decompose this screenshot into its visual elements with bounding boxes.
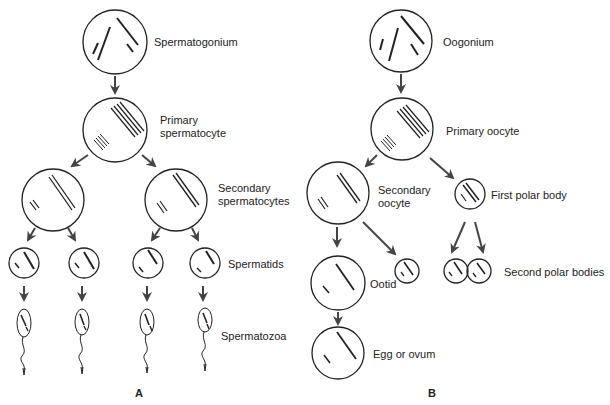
label-ootid: Ootid bbox=[370, 277, 396, 291]
diagram-graphics bbox=[0, 0, 610, 405]
spermatozoa-cells bbox=[17, 308, 212, 375]
egg-cell bbox=[312, 327, 364, 379]
label-secondary-oocyte-line2: oocyte bbox=[378, 196, 410, 210]
primary-spermatocyte-cell bbox=[83, 98, 147, 162]
label-oogonium: Oogonium bbox=[443, 35, 494, 49]
label-primary-oocyte: Primary oocyte bbox=[446, 124, 519, 138]
secondary-oocyte-cell bbox=[307, 162, 369, 224]
secondary-spermatocyte-cell-right bbox=[145, 169, 207, 231]
panel-letter-b: B bbox=[428, 387, 436, 399]
label-secondary-spermatocytes-line2: spermatocytes bbox=[218, 194, 290, 208]
primary-oocyte-cell bbox=[371, 98, 433, 160]
label-spermatids: Spermatids bbox=[228, 257, 284, 271]
label-primary-spermatocyte-line1: Primary bbox=[160, 113, 198, 127]
ootid-cell bbox=[311, 256, 365, 310]
label-secondary-spermatocytes-line1: Secondary bbox=[218, 181, 271, 195]
label-second-polar-bodies: Second polar bodies bbox=[504, 265, 604, 279]
label-spermatozoa: Spermatozoa bbox=[221, 329, 286, 343]
panel-letter-a: A bbox=[135, 387, 143, 399]
spermatogonium-cell bbox=[83, 10, 147, 74]
label-first-polar-body: First polar body bbox=[491, 188, 567, 202]
label-spermatogonium: Spermatogonium bbox=[154, 35, 238, 49]
label-secondary-oocyte-line1: Secondary bbox=[378, 183, 431, 197]
gametogenesis-diagram: Spermatogonium Primary spermatocyte Seco… bbox=[0, 0, 610, 405]
label-egg-or-ovum: Egg or ovum bbox=[373, 347, 435, 361]
secondary-spermatocyte-cell-left bbox=[22, 169, 84, 231]
second-polar-body-cells bbox=[395, 259, 491, 283]
first-polar-body-cell bbox=[455, 179, 485, 209]
oogonium-cell bbox=[370, 10, 432, 72]
spermatid-cells bbox=[9, 248, 220, 278]
label-primary-spermatocyte-line2: spermatocyte bbox=[160, 126, 226, 140]
